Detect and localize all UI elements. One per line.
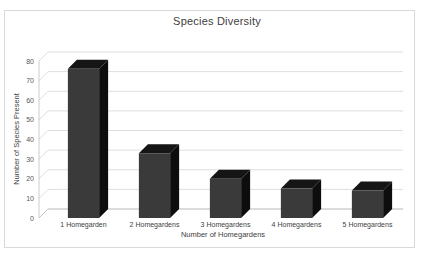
y-tick-labels-group: 01020304050607080 xyxy=(26,58,34,222)
x-tick-label: 3 Homegardens xyxy=(201,221,251,229)
depth-axis-line xyxy=(39,209,48,218)
bar xyxy=(139,144,179,218)
y-tick-label: 70 xyxy=(26,77,34,84)
x-tick-label: 2 Homegardens xyxy=(130,221,180,229)
bars-group xyxy=(68,60,392,218)
x-axis-title: Number of Homegardens xyxy=(181,230,265,239)
x-tick-label: 5 Homegardens xyxy=(343,221,393,229)
y-tick-label: 10 xyxy=(26,195,34,202)
y-tick-label: 50 xyxy=(26,116,34,123)
y-tick-label: 80 xyxy=(26,58,34,65)
y-tick-label: 60 xyxy=(26,97,34,104)
bar xyxy=(281,180,321,218)
y-tick-label: 20 xyxy=(26,175,34,182)
bar xyxy=(352,182,392,218)
x-tick-label: 4 Homegardens xyxy=(272,221,322,229)
y-axis-title: Number of Species Present xyxy=(12,92,21,185)
x-tick-label: 1 Homegarden xyxy=(60,221,106,229)
species-diversity-chart: Species Diversity 01020304050607080 1 Ho… xyxy=(5,11,414,247)
gridline xyxy=(39,52,403,61)
bar xyxy=(68,60,108,218)
bar xyxy=(210,170,250,218)
y-tick-label: 0 xyxy=(30,215,34,222)
chart-title: Species Diversity xyxy=(173,15,261,27)
y-tick-label: 30 xyxy=(26,156,34,163)
x-tick-labels-group: 1 Homegarden2 Homegardens3 Homegardens4 … xyxy=(60,221,393,229)
y-tick-label: 40 xyxy=(26,136,34,143)
chart-frame: Species Diversity 01020304050607080 1 Ho… xyxy=(4,10,415,248)
